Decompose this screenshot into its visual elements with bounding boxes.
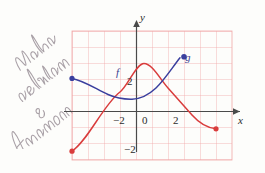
curve-label-f: f [116,67,119,78]
x-tick-2: 2 [173,115,179,126]
y-axis-label: y [140,12,145,23]
grid [72,31,232,160]
x-tick-0: 0 [142,115,148,126]
y-tick-minus2: −2 [124,144,136,155]
x-axis-label: x [238,115,243,126]
plot-area: y x −2 0 2 2 −2 f g [72,31,232,160]
x-tick-minus2: −2 [113,115,125,126]
y-tick-2: 2 [127,76,133,87]
graph-screenshot: y x −2 0 2 2 −2 f g [0,0,265,173]
curve-label-g: g [185,52,191,63]
